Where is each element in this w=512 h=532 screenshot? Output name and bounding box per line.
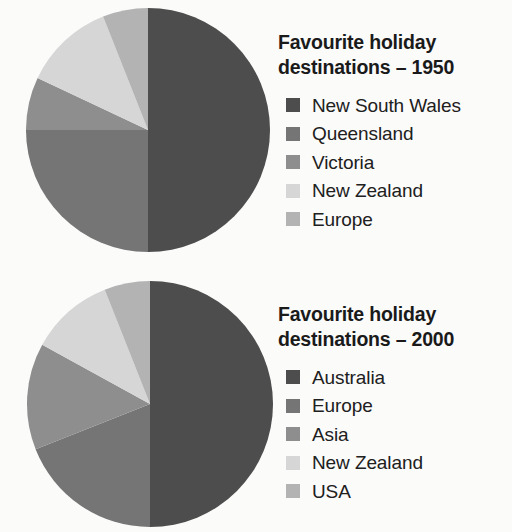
legend-1950: Favourite holiday destinations – 1950 Ne… [278, 30, 512, 234]
legend-item-label: New Zealand [312, 453, 423, 472]
legend-swatch-icon [286, 155, 300, 169]
legend-item-label: Asia [312, 425, 349, 444]
legend-item[interactable]: Queensland [278, 120, 512, 148]
legend-item-label: Victoria [312, 153, 374, 172]
chart-title-1950: Favourite holiday destinations – 1950 [278, 30, 512, 79]
legend-item[interactable]: Australia [278, 363, 512, 391]
legend-item[interactable]: USA [278, 477, 512, 505]
legend-item[interactable]: Asia [278, 420, 512, 448]
legend-swatch-icon [286, 427, 300, 441]
legend-item[interactable]: Europe [278, 205, 512, 233]
legend-item[interactable]: New Zealand [278, 177, 512, 205]
legend-item-label: USA [312, 482, 351, 501]
legend-swatch-icon [286, 456, 300, 470]
legend-item[interactable]: Victoria [278, 148, 512, 176]
legend-swatch-icon [286, 370, 300, 384]
legend-swatch-icon [286, 212, 300, 226]
pie-slice[interactable] [148, 8, 270, 252]
pie-slice-group-1950 [26, 8, 270, 252]
pie-svg-2000 [26, 280, 274, 528]
legend-item-label: New Zealand [312, 181, 423, 200]
legend-item-label: Europe [312, 210, 373, 229]
legend-item-label: Queensland [312, 124, 413, 143]
pie-slice[interactable] [150, 281, 273, 527]
legend-item-label: Australia [312, 368, 385, 387]
legend-item[interactable]: New Zealand [278, 449, 512, 477]
pie-chart-2000 [26, 280, 274, 528]
legend-swatch-icon [286, 399, 300, 413]
chart-title-2000: Favourite holiday destinations – 2000 [278, 302, 512, 351]
legend-swatch-icon [286, 98, 300, 112]
pie-slice[interactable] [26, 130, 148, 252]
legend-item-label: New South Wales [312, 96, 461, 115]
chart-block-2000: Favourite holiday destinations – 2000 Au… [0, 266, 512, 532]
legend-item[interactable]: Europe [278, 392, 512, 420]
pie-chart-1950 [25, 7, 271, 253]
legend-list-1950: New South WalesQueenslandVictoriaNew Zea… [278, 91, 512, 233]
legend-item-label: Europe [312, 396, 373, 415]
pie-slice-group-2000 [27, 281, 273, 527]
legend-list-2000: AustraliaEuropeAsiaNew ZealandUSA [278, 363, 512, 505]
legend-item[interactable]: New South Wales [278, 91, 512, 119]
pie-svg-1950 [25, 7, 271, 253]
legend-swatch-icon [286, 184, 300, 198]
legend-swatch-icon [286, 127, 300, 141]
chart-page: Favourite holiday destinations – 1950 Ne… [0, 0, 512, 532]
chart-block-1950: Favourite holiday destinations – 1950 Ne… [0, 0, 512, 266]
legend-swatch-icon [286, 484, 300, 498]
legend-2000: Favourite holiday destinations – 2000 Au… [278, 302, 512, 506]
